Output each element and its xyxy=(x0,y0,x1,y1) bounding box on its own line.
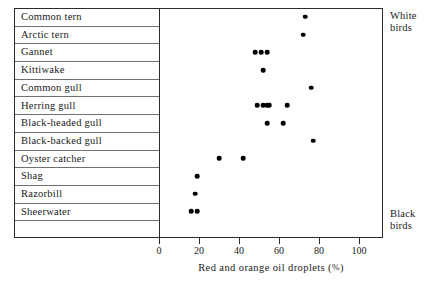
plot-area xyxy=(159,8,383,238)
data-point xyxy=(195,209,200,214)
species-label-row: Sheerwater xyxy=(15,204,160,222)
x-axis-title-text: Red and orange oil droplets ( xyxy=(198,262,332,273)
species-label-text: Common gull xyxy=(21,83,82,94)
species-label-table: Common ternArctic ternGannetKittiwakeCom… xyxy=(14,8,160,238)
data-point xyxy=(217,156,222,161)
data-point xyxy=(267,103,272,108)
species-label-text: Herring gull xyxy=(21,101,76,112)
species-label-row: Oyster catcher xyxy=(15,151,160,169)
x-axis-tick xyxy=(199,238,200,244)
x-axis-title-close: ) xyxy=(340,262,344,273)
species-label-text: Razorbill xyxy=(21,189,62,200)
species-label-text: Common tern xyxy=(21,12,82,23)
species-label-text: Oyster catcher xyxy=(21,154,85,165)
x-axis-tick-label: 20 xyxy=(194,245,204,256)
data-point xyxy=(311,138,316,143)
data-point xyxy=(193,191,198,196)
x-axis: 020406080100 xyxy=(159,238,383,239)
data-point xyxy=(285,103,290,108)
species-label-text: Black-backed gull xyxy=(21,136,102,147)
group-white-line2: birds xyxy=(390,22,417,34)
data-point xyxy=(303,15,308,20)
data-point xyxy=(309,85,314,90)
x-axis-tick-label: 40 xyxy=(234,245,244,256)
species-label-row: Black-backed gull xyxy=(15,133,160,151)
empty-label-row xyxy=(15,221,160,239)
x-axis-tick xyxy=(359,238,360,244)
group-black-line1: Black xyxy=(390,208,416,220)
species-label-text: Gannet xyxy=(21,47,53,58)
data-point xyxy=(189,209,194,214)
data-point xyxy=(259,50,264,55)
species-label-row: Shag xyxy=(15,168,160,186)
group-annotation-black-birds: Black birds xyxy=(390,208,416,232)
data-point xyxy=(265,50,270,55)
species-label-text: Arctic tern xyxy=(21,30,69,41)
x-axis-tick xyxy=(319,238,320,244)
species-label-row: Gannet xyxy=(15,44,160,62)
x-axis-tick-label: 80 xyxy=(314,245,324,256)
species-label-text: Black-headed gull xyxy=(21,118,102,129)
species-label-row: Kittiwake xyxy=(15,62,160,80)
species-label-row: Common gull xyxy=(15,80,160,98)
data-point xyxy=(255,103,260,108)
species-label-row: Herring gull xyxy=(15,97,160,115)
data-point xyxy=(253,50,258,55)
species-label-text: Shag xyxy=(21,171,43,182)
percent-symbol: % xyxy=(332,262,340,272)
data-point xyxy=(241,156,246,161)
species-label-row: Arctic tern xyxy=(15,27,160,45)
data-point xyxy=(301,32,306,37)
x-axis-tick xyxy=(279,238,280,244)
x-axis-tick xyxy=(239,238,240,244)
species-label-row: Black-headed gull xyxy=(15,115,160,133)
x-axis-tick xyxy=(159,238,160,244)
data-point xyxy=(195,174,200,179)
x-axis-title: Red and orange oil droplets (%) xyxy=(159,262,383,273)
data-point xyxy=(281,121,286,126)
data-point xyxy=(261,68,266,73)
species-label-text: Sheerwater xyxy=(21,207,71,218)
bird-oil-droplet-scatter-figure: Common ternArctic ternGannetKittiwakeCom… xyxy=(0,0,433,285)
x-axis-tick-label: 0 xyxy=(157,245,162,256)
species-label-text: Kittiwake xyxy=(21,65,65,76)
group-annotation-white-birds: White birds xyxy=(390,10,417,34)
x-axis-tick-label: 100 xyxy=(352,245,367,256)
species-label-row: Common tern xyxy=(15,9,160,27)
group-white-line1: White xyxy=(390,10,417,22)
group-black-line2: birds xyxy=(390,220,416,232)
data-point xyxy=(265,121,270,126)
species-label-row: Razorbill xyxy=(15,186,160,204)
x-axis-tick-label: 60 xyxy=(274,245,284,256)
